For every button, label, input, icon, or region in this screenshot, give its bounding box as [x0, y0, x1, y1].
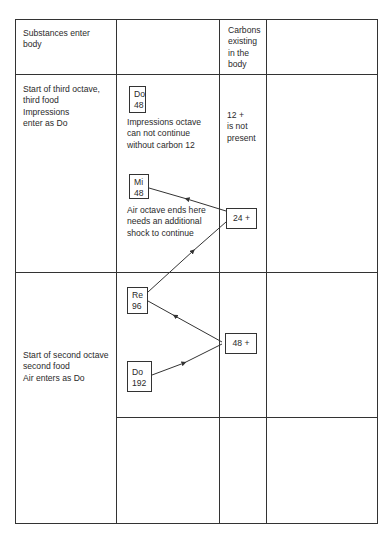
carbon-12-status: 12 + is not present	[227, 110, 256, 144]
impressions-annotation: Impressions octave can not continue with…	[127, 117, 201, 151]
header-substances: Substances enter body	[23, 28, 90, 51]
third-octave-label: Start of third octave, third food Impres…	[23, 84, 100, 129]
note-re-96: Re 96	[127, 287, 148, 314]
carbon-48-box: 48 +	[225, 333, 257, 354]
note-do-48: Do 48	[129, 86, 146, 113]
second-octave-label: Start of second octave second food Air e…	[23, 350, 109, 384]
note-mi-48: Mi 48	[129, 174, 149, 199]
air-annotation: Air octave ends here needs an additional…	[127, 205, 206, 239]
diagram-grid	[0, 0, 392, 539]
carbon-24-box: 24 +	[226, 208, 257, 229]
header-carbons: Carbons existing in the body	[228, 25, 260, 70]
note-do-192: Do 192	[127, 361, 152, 392]
